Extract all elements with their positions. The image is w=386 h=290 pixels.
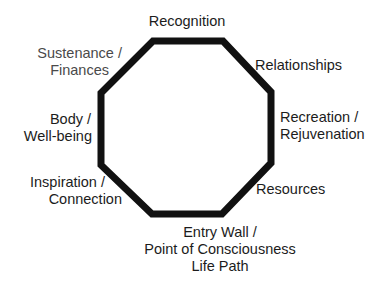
octagon-diagram: Recognition Relationships Recreation / R… (0, 0, 386, 290)
label-line: Inspiration / (10, 174, 122, 191)
label-line: Sustenance / (10, 45, 122, 62)
label-line: Relationships (255, 57, 342, 74)
label-inspiration-connection: Inspiration / Connection (10, 174, 122, 208)
label-recognition: Recognition (137, 13, 237, 30)
label-line: Entry Wall / (130, 224, 310, 241)
octagon-outline (101, 41, 271, 214)
label-body-wellbeing: Body / Well-being (0, 111, 92, 145)
label-line: Body / (0, 111, 92, 128)
label-line: Well-being (0, 128, 92, 145)
label-resources: Resources (256, 181, 325, 198)
label-line: Point of Consciousness (130, 241, 310, 258)
label-line: Finances (10, 62, 122, 79)
label-line: Recognition (137, 13, 237, 30)
label-recreation-rejuvenation: Recreation / Rejuvenation (280, 109, 365, 143)
label-relationships: Relationships (255, 57, 342, 74)
label-line: Connection (10, 191, 122, 208)
label-entry-wall: Entry Wall / Point of Consciousness Life… (130, 224, 310, 275)
label-sustenance-finances: Sustenance / Finances (10, 45, 122, 79)
label-line: Life Path (130, 258, 310, 275)
label-line: Rejuvenation (280, 126, 365, 143)
label-line: Recreation / (280, 109, 365, 126)
label-line: Resources (256, 181, 325, 198)
